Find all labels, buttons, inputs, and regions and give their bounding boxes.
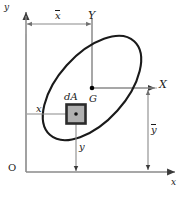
dA-center-point xyxy=(74,112,78,116)
centroid-point xyxy=(90,86,95,91)
x-axis-label: x xyxy=(171,178,176,187)
dA-label: dA xyxy=(64,92,78,102)
element-dA xyxy=(67,105,86,124)
y-axis-label: y xyxy=(4,3,9,12)
origin-label: O xyxy=(8,163,16,173)
y-bar-text: y xyxy=(151,125,157,135)
x-bar-text: x xyxy=(55,11,61,21)
X-axis-label: X xyxy=(159,79,167,90)
x-small-label: x xyxy=(36,104,42,114)
centroid-label: G xyxy=(89,94,97,104)
Y-axis-label: Y xyxy=(88,10,95,21)
figure-canvas: y x O x Y X G dA x y y xyxy=(0,0,184,197)
y-bar-label: y xyxy=(151,125,157,135)
x-bar-label: x xyxy=(55,11,61,21)
y-small-label: y xyxy=(79,142,85,152)
